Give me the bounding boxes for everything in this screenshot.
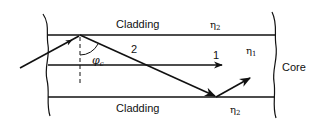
core-label: Core: [282, 61, 306, 73]
critical-angle-label: φc: [92, 54, 104, 68]
ray-2-label: 2: [131, 43, 137, 55]
cladding-top-label: Cladding: [116, 18, 159, 30]
eta2-bottom-label: η2: [230, 104, 240, 117]
right-break-line: [272, 12, 276, 118]
incident-ray: [20, 36, 79, 68]
eta1-label: η1: [246, 45, 256, 58]
fiber-diagram: Cladding Cladding η2 η2 η1 Core 2 1 φc: [0, 0, 311, 129]
ray-1-label: 1: [213, 49, 219, 61]
eta2-top-label: η2: [210, 19, 220, 32]
ray-2-second-reflection: [216, 78, 250, 97]
cladding-bottom-label: Cladding: [116, 102, 159, 114]
